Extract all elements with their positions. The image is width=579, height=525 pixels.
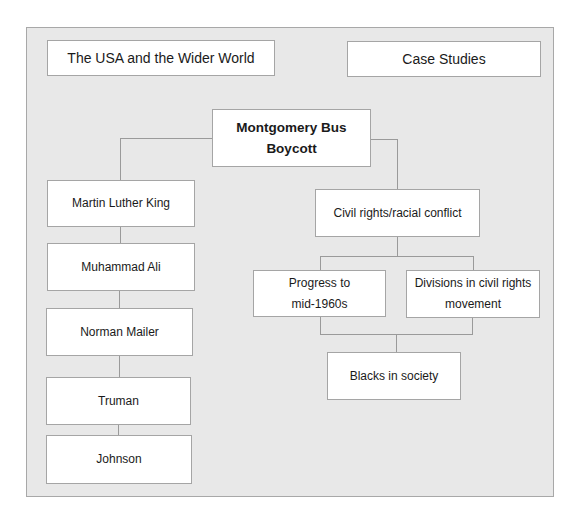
node-label: Civil rights/racial conflict: [333, 203, 461, 224]
node-muhammad-ali: Muhammad Ali: [47, 243, 195, 291]
node-label: Norman Mailer: [80, 322, 159, 343]
root-node: Montgomery Bus Boycott: [212, 109, 371, 167]
connector: [472, 318, 473, 334]
node-norman-mailer: Norman Mailer: [46, 308, 193, 356]
connector: [320, 256, 473, 257]
node-blacks-in-society: Blacks in society: [327, 352, 461, 400]
connector: [320, 317, 321, 334]
node-label: Blacks in society: [350, 366, 439, 387]
node-martin-luther-king: Martin Luther King: [47, 180, 195, 227]
node-label: Martin Luther King: [72, 193, 170, 214]
root-line2: Boycott: [266, 138, 316, 159]
node-civil-rights: Civil rights/racial conflict: [315, 189, 480, 237]
header-right-box: Case Studies: [347, 41, 541, 77]
node-truman: Truman: [46, 377, 191, 425]
connector: [120, 227, 121, 244]
node-divisions: Divisions in civil rights movement: [406, 270, 540, 318]
header-left-label: The USA and the Wider World: [67, 48, 254, 69]
connector: [370, 139, 397, 140]
connector: [397, 237, 398, 256]
node-label: Johnson: [96, 449, 141, 470]
connector: [119, 291, 120, 309]
connector: [397, 139, 398, 190]
root-line1: Montgomery Bus: [236, 117, 346, 138]
node-label-line2: mid-1960s: [291, 294, 347, 315]
header-right-label: Case Studies: [402, 49, 485, 70]
node-label-line1: Progress to: [289, 273, 350, 294]
connector: [120, 138, 121, 181]
node-label-line2: movement: [445, 294, 501, 315]
node-label-line1: Divisions in civil rights: [415, 273, 532, 294]
node-progress: Progress to mid-1960s: [253, 270, 386, 317]
connector: [119, 356, 120, 378]
node-label: Muhammad Ali: [81, 257, 160, 278]
node-label: Truman: [98, 391, 139, 412]
connector: [320, 256, 321, 271]
connector: [120, 138, 213, 139]
connector: [473, 256, 474, 271]
node-johnson: Johnson: [46, 435, 192, 484]
header-left-box: The USA and the Wider World: [47, 40, 275, 76]
connector: [396, 334, 397, 353]
